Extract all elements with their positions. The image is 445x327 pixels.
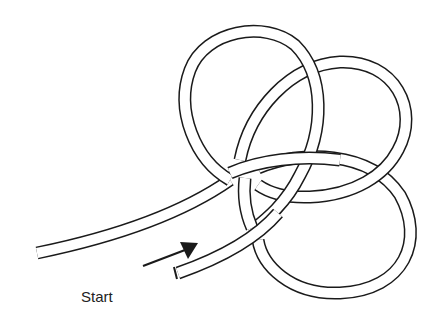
knot-drawing: .o{fill:none;stroke:#1a1a1a;stroke-width…: [0, 0, 445, 327]
knot-diagram: .o{fill:none;stroke:#1a1a1a;stroke-width…: [0, 0, 445, 327]
loop-bottom: [258, 157, 410, 293]
standing-strand: [37, 180, 230, 253]
center-strand: [244, 178, 252, 228]
loop-right: [240, 62, 406, 197]
start-label: Start: [81, 288, 113, 305]
cross-strand: [230, 158, 340, 173]
